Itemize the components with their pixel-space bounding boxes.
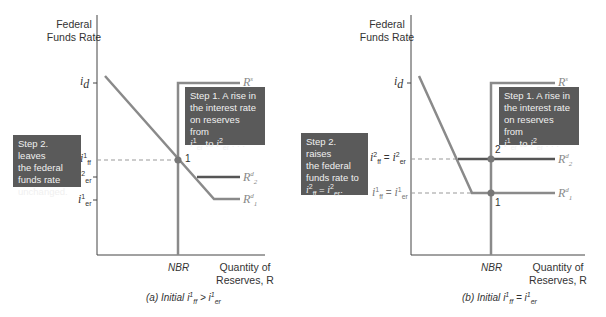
panel-a-step2-box: Step 2. leaves the federal funds rate un… [13,135,81,187]
panel-a-id-label: id [80,75,89,88]
panel-b-step1-ellipsis: . . . [543,138,559,149]
panel-b-y-axis-title-line2: Funds Rate [357,31,417,44]
panel-a-step1-i-a-sup: 1 [193,137,197,144]
panel-a-ier1-sup: 1 [81,193,85,200]
panel-b-level1-b-sup: 1 [398,186,402,193]
panel-a-id-sub: d [83,77,89,91]
panel-a-iff1-sup: 1 [83,152,87,159]
panel-b-step2-eq: = [316,184,327,195]
panel-b-step1-box: Step 1. A rise in the interest rate on r… [499,87,579,145]
panel-a-step1-i-b-sup: 2 [219,137,223,144]
panel-a-iff1-sub: ff [87,159,91,166]
panel-b-step1-line4: i1er to i2er . . . [504,138,574,150]
panel-b-step1-line1: Step 1. A rise in [504,90,574,102]
panel-b-step1-to: to [517,138,530,149]
panel-b-r2d-sup: d [565,152,569,160]
panel-b-x-axis-title-line2: Reserves, R [527,274,589,287]
panel-a-caption-op: > [197,292,208,303]
panel-b-x-axis-title: Quantity of Reserves, R [527,261,589,287]
panel-b-y-axis-title: Federal Funds Rate [357,18,417,44]
panel-b-level2-sup: 2 [373,151,377,158]
panel-a-caption-i2-sub: er [215,298,221,305]
panel-a-y-axis-title: Federal Funds Rate [44,18,104,44]
panel-b-caption-i1-sup: 1 [505,291,509,298]
panel-b-r2d-sub: 2 [569,160,573,168]
panel-b-nbr-label: NBR [481,262,502,274]
panel-b-r2d-label: Rd2 [558,152,572,167]
panel-a-r2d-sup: d [250,170,254,178]
panel-a-y-axis-title-line2: Funds Rate [44,31,104,44]
panel-b-level1-b-sub: er [402,193,408,200]
panel-a-caption: (a) Initial i1ff > i1er [146,292,221,303]
panel-b-caption-op: = [513,292,524,303]
panel-a-ier1-label: i1er [78,193,91,206]
panel-b-point-2-label: 2 [495,144,501,155]
panel-b-id-label: id [394,75,403,88]
panel-a-iff1-label: i1ff [80,152,91,165]
panel-b-step1-line3: on reserves from [504,114,574,138]
panel-b-point-1-label: 1 [495,197,501,208]
panel-a-caption-prefix: (a) Initial [146,292,187,303]
panel-b-x-axis-title-line1: Quantity of [527,261,589,274]
panel-b-level1-sup: 1 [375,186,379,193]
panel-b-step2-line3: funds rate to [306,172,363,184]
panel-a-r2d-sub: 2 [254,178,258,186]
panel-a-nbr-label: NBR [168,262,189,274]
panel-a-ier2-sub: er [85,177,91,184]
panel-a-caption-i1-sup: 1 [189,291,193,298]
panel-b-level2-b-sup: 2 [396,151,400,158]
panel-b-step2-i-b-sup: 2 [330,183,334,190]
panel-b-r1d-label: Rd1 [558,186,572,201]
panel-b-caption: (b) Initial i1ff = i1er [462,292,537,303]
panel-b-step2-line2: the federal [306,160,363,172]
panel-b-caption-i2-sup: 1 [527,291,531,298]
panel-a-x-axis-title: Quantity of Reserves, R [214,261,276,287]
panel-b-rs-sup: s [565,75,568,83]
panel-a-step1-box: Step 1. A rise in the interest rate on r… [185,87,265,145]
panel-a-caption-i2-sup: 1 [211,291,215,298]
panel-a-step2-line4: unchanged. [18,186,76,198]
panel-a-r1d-sub: 1 [254,200,258,208]
panel-b-step1-line2: the interest rate [504,102,574,114]
panel-b-equilibrium-point-2 [488,156,495,163]
panel-b-caption-prefix: (b) Initial [462,292,503,303]
panel-a-step2-line1: Step 2. leaves [18,138,76,162]
panel-b-y-axis-title-line1: Federal [357,18,417,31]
panel-a-ier1-sub: er [85,200,91,207]
panel-a-step2-line2: the federal [18,162,76,174]
panel-a-x-axis-title-line1: Quantity of [214,261,276,274]
panel-b-equilibrium-point-1 [488,190,495,197]
panel-a-r1d-label: Rd1 [243,192,257,207]
panel-b-caption-i2-sub: er [531,298,537,305]
panel-b-level2-b-sub: er [400,158,406,165]
panel-b-step2-i-a-sup: 2 [309,183,313,190]
panel-b-step2-box: Step 2. raises the federal funds rate to… [301,133,368,195]
panel-a-y-axis-title-line1: Federal [44,18,104,31]
panel-a-ier2-sup: 2 [81,170,85,177]
panel-a-r2d-label: Rd2 [243,170,257,185]
panel-a-r1d-sup: d [250,192,254,200]
panel-b-r1d-sub: 1 [569,194,573,202]
panel-b-step1-i-b-sup: 2 [533,137,537,144]
panel-a-step1-ellipsis: . . . [229,138,245,149]
panel-a-step1-line4: i1er to i2er . . . [190,138,260,150]
panel-b-step2-line1: Step 2. raises [306,136,363,160]
panel-a-equilibrium-point-1 [175,157,182,164]
panel-b-level1-eq: = [383,187,394,198]
panel-a-step2-line3: funds rate [18,174,76,186]
panel-a-point-1-label: 1 [185,153,191,164]
panel-a-rs-sup: s [250,75,253,83]
panel-a-step1-to: to [203,138,216,149]
panel-a-x-axis-title-line2: Reserves, R [214,274,276,287]
panel-b-step2-line4: i2ff = i2er. [306,184,363,196]
panel-a-step1-line3: on reserves from [190,114,260,138]
panel-b-id-sub: d [397,77,403,91]
panel-b-level2-label: i2ff = i2er [370,151,406,164]
panel-a-step1-line1: Step 1. A rise in [190,90,260,102]
panel-a-step1-line2: the interest rate [190,102,260,114]
panel-b-level1-label: i1ff = i1er [372,186,408,199]
panel-b-step2-period: . [340,184,343,195]
panel-b-step1-i-a-sup: 1 [507,137,511,144]
panel-b-level2-eq: = [381,152,392,163]
panel-b-r1d-sup: d [565,186,569,194]
